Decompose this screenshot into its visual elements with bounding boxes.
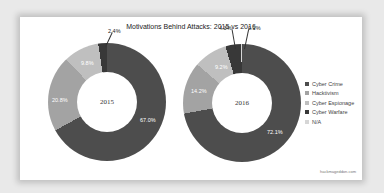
donut-2015-center-label: 2015 [77,72,137,132]
legend-item-cyber-warfare: Cyber Warfare [305,108,354,118]
legend-label: Cyber Warfare [312,109,348,115]
legend-label: Cyber Espionage [312,100,354,106]
legend-item-na: N/A [305,117,354,127]
chart-title: Motivations Behind Attacks: 2015 vs 2016 [20,23,362,30]
legend-swatch [305,101,309,105]
watermark: hackmageddon.com [320,169,356,174]
chart-card: Motivations Behind Attacks: 2015 vs 2016… [20,17,362,180]
legend: Cyber Crime Hacktivism Cyber Espionage C… [305,79,354,127]
legend-label: Hacktivism [312,90,339,96]
label-2016-espionage: 9.2% [215,64,228,70]
donut-2016-center-label: 2016 [212,73,272,133]
legend-item-cyber-crime: Cyber Crime [305,79,354,89]
legend-item-hacktivism: Hacktivism [305,89,354,99]
legend-swatch [305,91,309,95]
donut-2015: 2015 67.0% 20.8% 9.8% [48,43,166,161]
legend-swatch [305,82,309,86]
legend-swatch [305,120,309,124]
label-2015-hacktivism: 20.8% [52,97,68,103]
donut-2016: 2016 72.1% 14.2% 9.2% [183,44,301,162]
label-2015-warfare: 2.4% [108,28,121,34]
legend-label: N/A [312,119,321,125]
legend-label: Cyber Crime [312,81,343,87]
label-2016-warfare: 4.3% [219,25,232,31]
label-2015-crime: 67.0% [140,117,156,123]
label-2016-hacktivism: 14.2% [191,88,207,94]
label-2016-na: 0.1% [248,25,261,31]
label-2016-crime: 72.1% [267,129,283,135]
legend-swatch [305,110,309,114]
label-2015-espionage: 9.8% [81,60,94,66]
legend-item-cyber-espionage: Cyber Espionage [305,98,354,108]
